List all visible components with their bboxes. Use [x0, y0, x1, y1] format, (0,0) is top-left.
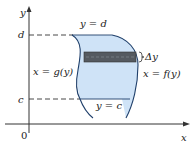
right-curve-label: x = f(y) — [143, 69, 181, 79]
left-curve-label: x = g(y) — [33, 67, 73, 77]
bottom-boundary-label: y = c — [96, 101, 122, 111]
c-tick-label: c — [18, 95, 24, 105]
y-axis-arrow-icon — [27, 6, 32, 12]
y-axis-label: y — [20, 8, 26, 18]
x-axis-label: x — [181, 133, 187, 143]
d-tick-label: d — [18, 30, 24, 40]
x-axis-arrow-icon — [183, 122, 190, 127]
top-boundary-label: y = d — [80, 19, 107, 29]
strip-height-label: Δy — [145, 52, 158, 62]
delta-y-brace — [139, 52, 144, 62]
origin-label: 0 — [21, 131, 27, 141]
